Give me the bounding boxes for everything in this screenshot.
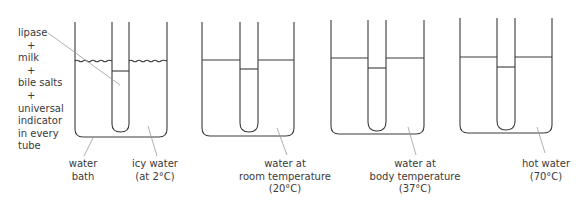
beaker-body: [331, 20, 424, 134]
contents-line: tube: [18, 140, 64, 153]
leader-room: [277, 128, 287, 155]
hot-water-label: hot water (70°C): [522, 158, 570, 183]
contents-line: +: [18, 65, 64, 78]
contents-line: universal: [18, 103, 64, 116]
room-temperature-label: water at room temperature (20°C): [239, 158, 331, 196]
contents-line: lipase: [18, 27, 64, 40]
beaker-hot: [460, 18, 552, 133]
contents-line: +: [18, 40, 64, 53]
beaker-room: [202, 22, 294, 136]
icy-water-label: icy water (at 2°C): [132, 158, 178, 183]
contents-line: milk: [18, 52, 64, 65]
contents-line: indicator: [18, 115, 64, 128]
contents-line: +: [18, 90, 64, 103]
leader-hot: [537, 127, 545, 153]
body-temperature-label: water at body temperature (37°C): [370, 158, 461, 196]
wavy-surface-right: [129, 60, 167, 62]
leader-body: [408, 127, 416, 155]
beaker-icy: [75, 22, 167, 137]
water-bath-label: water bath: [69, 158, 98, 183]
leader-icy: [148, 126, 157, 156]
contents-line: in every: [18, 128, 64, 141]
leader-water-bath: [84, 138, 93, 156]
wavy-surface-left: [75, 60, 112, 62]
tube-contents-label: lipase + milk + bile salts + universal i…: [18, 27, 64, 153]
contents-line: bile salts: [18, 77, 64, 90]
